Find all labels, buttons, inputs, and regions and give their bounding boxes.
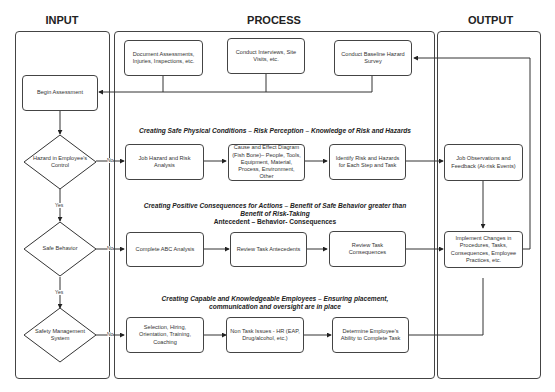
non-task-issues-box: Non Task Issues - HR (EAP, Drug/alcohol,… <box>226 317 304 353</box>
section-heading-capable-employees-line1: Creating Capable and Knowledgeable Emplo… <box>116 295 434 303</box>
selection-hiring-box: Selection, Hiring, Orientation, Training… <box>126 317 204 353</box>
implement-changes-box: Implement Changes in Procedures, Tasks, … <box>444 231 523 268</box>
no-label-3: No <box>107 332 113 337</box>
abc-subheading: Antecedent – Behavior- Consequences <box>116 218 434 226</box>
complete-abc-analysis-box: Complete ABC Analysis <box>126 232 204 267</box>
section-heading-capable-employees-line2: communication and oversight are in place <box>116 303 434 311</box>
section-heading-positive-consequences-line1: Creating Positive Consequences for Actio… <box>116 202 434 210</box>
yes-label-1: Yes <box>55 203 63 208</box>
section-heading-positive-consequences: Creating Positive Consequences for Actio… <box>116 202 434 227</box>
determine-ability-box: Determine Employee's Ability to Complete… <box>332 317 409 353</box>
review-task-consequences-box: Review Task Consequences <box>329 231 406 267</box>
no-label-2: No <box>107 246 113 251</box>
job-hazard-analysis-box: Job Hazard and Risk Analysis <box>125 144 204 180</box>
section-heading-capable-employees: Creating Capable and Knowledgeable Emplo… <box>116 295 434 311</box>
decision-hazard-in-control: Hazard in Employee's Control <box>28 150 92 174</box>
job-observations-box: Job Observations and Feedback (At-risk E… <box>444 144 523 181</box>
yes-label-2: Yes <box>55 290 63 295</box>
no-label-1: No <box>107 158 113 163</box>
decision-safety-management-system: Safety Management System <box>30 323 90 347</box>
identify-risk-box: Identify Risk and Hazards for Each Step … <box>329 144 406 180</box>
section-heading-physical-conditions: Creating Safe Physical Conditions – Risk… <box>116 127 434 135</box>
review-task-antecedents-box: Review Task Antecedents <box>230 232 307 267</box>
section-heading-positive-consequences-line2: Benefit of Risk-Taking <box>116 210 434 218</box>
decision-safe-behavior: Safe Behavior <box>28 238 92 260</box>
cause-effect-diagram-box: Cause and Effect Diagram (Fish Bone)– Pe… <box>228 144 305 181</box>
